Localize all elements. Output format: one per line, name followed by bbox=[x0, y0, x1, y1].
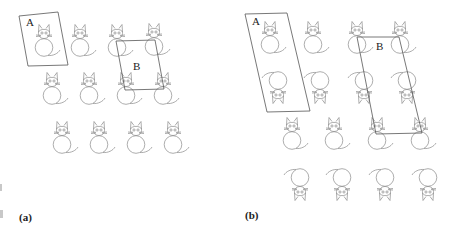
cat-icon-inverted bbox=[262, 72, 287, 104]
cat-icon bbox=[80, 73, 105, 105]
unit-cell-a-label: A bbox=[26, 16, 34, 28]
cat-icon bbox=[53, 122, 78, 154]
cropped-text-fragment bbox=[0, 210, 3, 218]
cat-icon bbox=[117, 73, 142, 105]
lattice-figure: A B (a) A B (b) bbox=[0, 0, 454, 233]
cat-icon-inverted bbox=[304, 72, 329, 104]
cat-icon bbox=[164, 122, 189, 154]
cat-icon-inverted bbox=[391, 72, 416, 104]
unit-cell-a-label: A bbox=[252, 15, 260, 27]
cat-icon-inverted bbox=[412, 169, 437, 201]
cat-icon bbox=[127, 122, 152, 154]
cat-icon bbox=[43, 73, 68, 105]
unit-cell-b-label: B bbox=[133, 60, 140, 72]
cat-icon-inverted bbox=[369, 169, 394, 201]
unit-cell-a-primitive bbox=[245, 13, 310, 112]
unit-cell-b-label: B bbox=[376, 40, 383, 52]
panel-label-a: (a) bbox=[19, 211, 32, 224]
cat-icon-inverted bbox=[326, 169, 351, 201]
cat-icon bbox=[35, 25, 60, 57]
lattice-diagram: A B (a) A B (b) bbox=[0, 0, 454, 233]
panel-label-b: (b) bbox=[245, 209, 259, 222]
cat-icon bbox=[325, 118, 350, 150]
cat-icon bbox=[71, 25, 96, 57]
cat-icon bbox=[90, 122, 115, 154]
cat-icon-inverted bbox=[284, 169, 309, 201]
cat-icon bbox=[145, 24, 170, 56]
cropped-text-fragment bbox=[0, 184, 2, 191]
cat-icon bbox=[154, 73, 179, 105]
cat-icon bbox=[261, 22, 286, 54]
cat-lattice-a bbox=[35, 24, 189, 154]
cat-icon bbox=[304, 22, 329, 54]
cat-lattice-b bbox=[261, 22, 437, 201]
cat-icon bbox=[283, 118, 308, 150]
panel-a: A B (a) bbox=[19, 12, 189, 224]
panel-b: A B (b) bbox=[245, 13, 437, 222]
